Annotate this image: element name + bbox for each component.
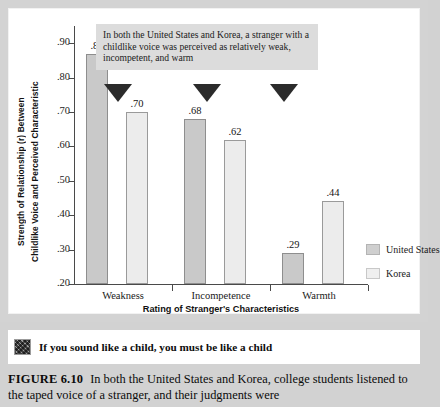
y-tick-label-30: .30 <box>32 243 70 254</box>
legend-swatch-icon <box>366 244 380 255</box>
chart-legend: United StatesKorea <box>366 244 440 292</box>
callout-pointer-icon-1 <box>104 84 132 102</box>
chart-frame: Strength of Relationship (r) Between Chi… <box>0 0 428 322</box>
bar-incompetence-korea <box>224 140 246 284</box>
x-axis-title: Rating of Stranger's Characteristics <box>74 304 368 314</box>
photo-thumbnail-icon <box>14 339 31 355</box>
legend-label: Korea <box>386 268 410 279</box>
bar-value-label: .29 <box>274 239 312 250</box>
callout-pointer-icon-2 <box>193 84 221 102</box>
chart-panel: Strength of Relationship (r) Between Chi… <box>8 8 420 314</box>
bar-chart: Strength of Relationship (r) Between Chi… <box>8 8 420 314</box>
bar-incompetence-united-states <box>184 119 206 284</box>
x-axis-line <box>74 284 368 285</box>
bar-value-label: .62 <box>216 126 254 137</box>
y-axis-title-line1: Strength of Relationship (r) Between <box>14 66 28 278</box>
y-tick-label-20: .20 <box>32 277 70 288</box>
bar-value-label: .44 <box>314 187 352 198</box>
figure-caption-label: FIGURE 6.10 <box>8 372 83 386</box>
y-tick-label-70: .70 <box>32 105 70 116</box>
legend-item-korea: Korea <box>366 268 440 279</box>
legend-swatch-icon <box>366 268 380 279</box>
y-axis-tick-labels: .90.80.70.60.50.40.30.20 <box>32 8 70 314</box>
figure-caption: FIGURE 6.10In both the United States and… <box>8 372 424 403</box>
feature-banner: If you sound like a child, you must be l… <box>8 330 420 364</box>
category-label-warmth: Warmth <box>260 290 378 301</box>
y-tick-label-90: .90 <box>32 36 70 47</box>
bar-value-label: .68 <box>176 105 214 116</box>
callout-box: In both the United States and Korea, a s… <box>96 24 318 70</box>
y-tick-label-50: .50 <box>32 174 70 185</box>
bar-weakness-korea <box>126 112 148 284</box>
legend-item-united-states: United States <box>366 244 440 255</box>
feature-banner-text: If you sound like a child, you must be l… <box>39 341 272 353</box>
legend-label: United States <box>386 244 440 255</box>
bar-warmth-united-states <box>282 253 304 284</box>
bar-warmth-korea <box>322 201 344 284</box>
callout-pointer-icon-3 <box>270 84 298 102</box>
y-tick-label-40: .40 <box>32 208 70 219</box>
y-tick-label-80: .80 <box>32 71 70 82</box>
y-tick-label-60: .60 <box>32 139 70 150</box>
